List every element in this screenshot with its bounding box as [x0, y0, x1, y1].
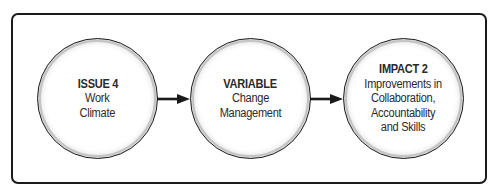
issue-node-body: Work Climate: [80, 91, 115, 120]
variable-node: VARIABLE Change Management: [190, 38, 311, 159]
impact-node-title: IMPACT 2: [379, 62, 428, 77]
variable-node-title: VARIABLE: [224, 77, 277, 92]
arrow-right-icon: [157, 94, 190, 104]
impact-node: IMPACT 2 Improvements in Collaboration, …: [343, 38, 464, 159]
impact-node-body: Improvements in Collaboration, Accountab…: [365, 77, 442, 135]
variable-node-body: Change Management: [220, 91, 282, 120]
issue-node-title: ISSUE 4: [77, 77, 117, 92]
issue-node: ISSUE 4 Work Climate: [37, 38, 158, 159]
arrow-right-icon: [310, 94, 343, 104]
